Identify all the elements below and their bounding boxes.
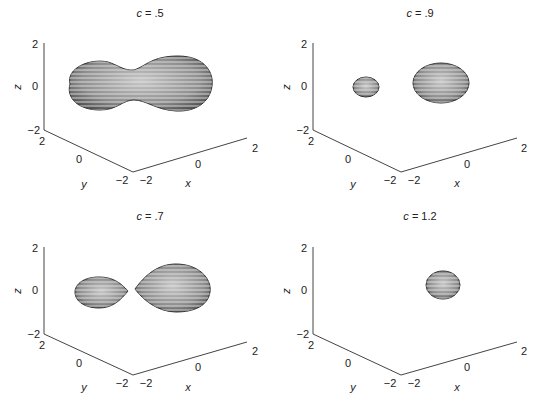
svg-text:2: 2 [301, 242, 307, 254]
y-axis-label: y [349, 381, 357, 393]
y-axis [44, 130, 133, 172]
svg-text:0: 0 [345, 153, 351, 165]
svg-text:−2: −2 [384, 377, 397, 389]
svg-text:0: 0 [464, 361, 470, 373]
svg-text:−2: −2 [116, 377, 129, 389]
panel-title: c = .7 [136, 210, 163, 222]
svg-text:2: 2 [301, 38, 307, 50]
svg-text:0: 0 [32, 80, 38, 92]
y-axis [313, 334, 401, 375]
svg-text:0: 0 [345, 357, 351, 369]
x-axis-label: x [453, 177, 460, 189]
svg-text:0: 0 [301, 284, 307, 296]
z-axis-label: z [280, 84, 292, 91]
panel-c-0-9: c = .9 2 0 −2 z 2 0 −2 y −2 0 2 x [280, 7, 527, 190]
svg-text:0: 0 [464, 158, 470, 170]
svg-text:0: 0 [76, 357, 82, 369]
figure: c = .5 2 0 −2 z 2 0 −2 y −2 0 2 x c = .9 [0, 0, 542, 406]
x-axis-label: x [184, 177, 191, 189]
svg-text:2: 2 [39, 135, 45, 147]
y-axis-label: y [80, 381, 88, 393]
x-axis-label: x [184, 381, 191, 393]
svg-text:2: 2 [521, 142, 527, 154]
svg-text:2: 2 [252, 345, 258, 357]
x-axis [401, 342, 517, 375]
y-axis [44, 334, 133, 375]
panel-c-0-7: c = .7 2 0 −2 z 2 0 −2 y −2 0 2 x [11, 210, 258, 393]
svg-text:−2: −2 [384, 174, 397, 186]
y-axis-label: y [349, 178, 357, 190]
svg-text:0: 0 [76, 153, 82, 165]
panel-title: c = .5 [136, 7, 163, 19]
surface-left-teardrop [75, 277, 128, 308]
svg-text:2: 2 [32, 242, 38, 254]
svg-text:−2: −2 [408, 377, 421, 389]
surface-large-ellipsoid [413, 63, 469, 103]
x-axis-label: x [453, 381, 460, 393]
surface-ellipsoid [426, 271, 460, 299]
surface-dumbbell [69, 56, 212, 111]
y-axis [313, 130, 401, 172]
panel-title: c = .9 [406, 7, 433, 19]
svg-text:−2: −2 [140, 377, 153, 389]
figure-canvas: c = .5 2 0 −2 z 2 0 −2 y −2 0 2 x c = .9 [0, 0, 542, 406]
svg-text:2: 2 [32, 38, 38, 50]
svg-text:2: 2 [521, 345, 527, 357]
svg-text:2: 2 [39, 339, 45, 351]
x-axis [133, 138, 247, 172]
x-axis [401, 138, 517, 172]
svg-text:2: 2 [308, 135, 314, 147]
x-axis [133, 342, 247, 375]
z-axis-label: z [11, 84, 23, 91]
svg-text:0: 0 [195, 361, 201, 373]
z-axis-label: z [11, 288, 23, 295]
svg-text:2: 2 [308, 339, 314, 351]
surface-small-ellipsoid [353, 77, 379, 97]
svg-text:−2: −2 [116, 174, 129, 186]
svg-text:0: 0 [32, 284, 38, 296]
svg-text:−2: −2 [140, 174, 153, 186]
panel-title: c = 1.2 [403, 210, 436, 222]
z-axis-label: z [280, 288, 292, 295]
svg-text:−2: −2 [408, 174, 421, 186]
panel-c-0-5: c = .5 2 0 −2 z 2 0 −2 y −2 0 2 x [11, 7, 258, 190]
surface-right-teardrop [135, 264, 210, 312]
svg-text:0: 0 [195, 158, 201, 170]
svg-text:0: 0 [301, 80, 307, 92]
svg-text:2: 2 [252, 142, 258, 154]
panel-c-1-2: c = 1.2 2 0 −2 z 2 0 −2 y −2 0 2 x [280, 210, 527, 393]
y-axis-label: y [80, 178, 88, 190]
